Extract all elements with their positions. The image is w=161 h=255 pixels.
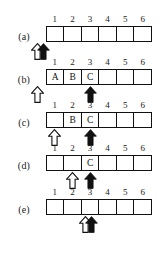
row-label: (c) (8, 117, 40, 128)
array-cell (64, 156, 81, 170)
column-index-label: 6 (134, 143, 152, 154)
column-index-row: 123456 (46, 187, 152, 199)
column-index-label: 6 (134, 100, 152, 111)
column-index-label: 2 (64, 57, 82, 68)
column-index-label: 4 (99, 14, 117, 25)
array-cell (47, 113, 64, 127)
column-index-row: 123456 (46, 14, 152, 26)
array-cell (64, 27, 81, 41)
array-cell: C (82, 70, 99, 84)
column-index-label: 4 (99, 143, 117, 154)
column-index-label: 6 (134, 14, 152, 25)
array-cell: C (82, 113, 99, 127)
diagram-row: (c)123456BC (0, 99, 161, 144)
diagram-row: (b)123456ABC (0, 56, 161, 101)
diagram-row: (a)123456 (0, 13, 161, 58)
array-grid (46, 26, 152, 42)
array-cell (82, 200, 99, 214)
array-cell (99, 200, 116, 214)
column-index-label: 5 (116, 143, 134, 154)
array-grid: ABC (46, 69, 152, 85)
array-cell (134, 113, 150, 127)
array-cell (47, 156, 64, 170)
arrow-up-filled-icon (85, 216, 98, 233)
column-index-label: 3 (81, 187, 99, 198)
column-index-label: 3 (81, 57, 99, 68)
column-index-label: 2 (64, 14, 82, 25)
column-index-label: 4 (99, 57, 117, 68)
array-cell: B (64, 113, 81, 127)
column-index-label: 6 (134, 57, 152, 68)
column-index-label: 1 (46, 14, 64, 25)
column-index-label: 1 (46, 100, 64, 111)
array-cell (134, 200, 150, 214)
row-label: (b) (8, 74, 40, 85)
array-grid (46, 199, 152, 215)
array-cell (99, 113, 116, 127)
array-cell: A (47, 70, 64, 84)
array-cell (99, 27, 116, 41)
column-index-row: 123456 (46, 143, 152, 155)
diagram-row: (d)123456C (0, 142, 161, 187)
diagram-row: (e)123456 (0, 186, 161, 231)
array-cell (99, 70, 116, 84)
array-cell (99, 156, 116, 170)
array-pointer-diagram: (a)123456(b)123456ABC(c)123456BC(d)12345… (0, 0, 161, 255)
array-cell (47, 27, 64, 41)
column-index-label: 2 (64, 100, 82, 111)
array-cell: B (64, 70, 81, 84)
array-cell (117, 27, 134, 41)
column-index-label: 6 (134, 187, 152, 198)
column-index-label: 3 (81, 100, 99, 111)
array-cell (117, 200, 134, 214)
row-label: (a) (8, 31, 40, 42)
column-index-label: 5 (116, 100, 134, 111)
row-label: (e) (8, 204, 40, 215)
column-index-label: 2 (64, 187, 82, 198)
array-cell (117, 113, 134, 127)
array-cell (117, 70, 134, 84)
column-index-label: 5 (116, 57, 134, 68)
column-index-label: 4 (99, 100, 117, 111)
array-cell (64, 200, 81, 214)
column-index-label: 3 (81, 143, 99, 154)
array-cell (134, 70, 150, 84)
array-cell: C (82, 156, 99, 170)
array-cell (134, 27, 150, 41)
array-grid: C (46, 155, 152, 171)
column-index-label: 2 (64, 143, 82, 154)
array-cell (134, 156, 150, 170)
column-index-label: 1 (46, 57, 64, 68)
column-index-label: 3 (81, 14, 99, 25)
row-label: (d) (8, 160, 40, 171)
column-index-label: 4 (99, 187, 117, 198)
column-index-label: 1 (46, 187, 64, 198)
array-grid: BC (46, 112, 152, 128)
array-cell (82, 27, 99, 41)
column-index-row: 123456 (46, 100, 152, 112)
array-cell (117, 156, 134, 170)
array-cell (47, 200, 64, 214)
column-index-label: 5 (116, 187, 134, 198)
column-index-row: 123456 (46, 57, 152, 69)
column-index-label: 5 (116, 14, 134, 25)
column-index-label: 1 (46, 143, 64, 154)
